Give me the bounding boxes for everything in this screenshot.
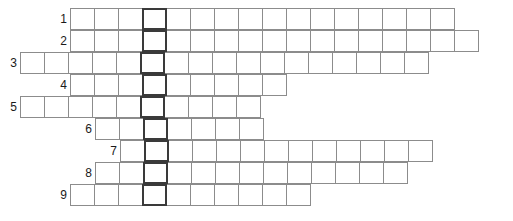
crossword-cell[interactable] [188, 52, 213, 74]
crossword-cell[interactable] [382, 30, 407, 52]
crossword-cell[interactable] [215, 162, 240, 184]
crossword-cell[interactable] [263, 162, 288, 184]
crossword-cell[interactable] [118, 74, 143, 96]
crossword-cell[interactable] [312, 140, 337, 162]
crossword-cell-highlighted[interactable] [142, 8, 167, 30]
crossword-cell[interactable] [212, 96, 237, 118]
crossword-cell[interactable] [68, 96, 93, 118]
crossword-cell[interactable] [119, 118, 144, 140]
crossword-cell[interactable] [214, 8, 239, 30]
crossword-cell[interactable] [236, 52, 261, 74]
crossword-cell-highlighted[interactable] [142, 74, 167, 96]
crossword-cell[interactable] [238, 8, 263, 30]
crossword-cell[interactable] [94, 74, 119, 96]
crossword-cell[interactable] [240, 140, 265, 162]
crossword-cell[interactable] [334, 30, 359, 52]
crossword-cell[interactable] [406, 30, 431, 52]
crossword-cell[interactable] [238, 30, 263, 52]
crossword-cell[interactable] [264, 140, 289, 162]
crossword-cell[interactable] [70, 30, 95, 52]
crossword-cell[interactable] [166, 30, 191, 52]
crossword-cell[interactable] [214, 30, 239, 52]
crossword-cell-highlighted[interactable] [143, 118, 168, 140]
crossword-cell[interactable] [286, 30, 311, 52]
crossword-cell-highlighted[interactable] [140, 96, 165, 118]
crossword-cell[interactable] [239, 162, 264, 184]
crossword-cell[interactable] [190, 8, 215, 30]
crossword-cell[interactable] [215, 118, 240, 140]
crossword-cell[interactable] [116, 96, 141, 118]
crossword-cell[interactable] [383, 162, 408, 184]
crossword-cell[interactable] [380, 52, 405, 74]
crossword-cell[interactable] [286, 184, 311, 206]
crossword-cell[interactable] [311, 162, 336, 184]
crossword-cell[interactable] [382, 8, 407, 30]
crossword-cell[interactable] [190, 74, 215, 96]
crossword-cell[interactable] [356, 52, 381, 74]
crossword-cell-highlighted[interactable] [142, 30, 167, 52]
crossword-cell[interactable] [359, 162, 384, 184]
crossword-cell[interactable] [406, 8, 431, 30]
crossword-cell[interactable] [262, 8, 287, 30]
crossword-cell[interactable] [284, 52, 309, 74]
crossword-cell[interactable] [191, 118, 216, 140]
crossword-cell[interactable] [335, 162, 360, 184]
crossword-cell[interactable] [167, 162, 192, 184]
crossword-cell[interactable] [94, 184, 119, 206]
crossword-cell[interactable] [430, 30, 455, 52]
crossword-cell[interactable] [70, 8, 95, 30]
crossword-cell[interactable] [408, 140, 433, 162]
crossword-cell[interactable] [164, 52, 189, 74]
crossword-cell[interactable] [44, 52, 69, 74]
crossword-cell[interactable] [168, 140, 193, 162]
crossword-cell[interactable] [118, 30, 143, 52]
crossword-cell[interactable] [68, 52, 93, 74]
crossword-cell[interactable] [454, 30, 479, 52]
crossword-cell-highlighted[interactable] [142, 184, 167, 206]
crossword-cell[interactable] [192, 140, 217, 162]
crossword-cell[interactable] [262, 74, 287, 96]
crossword-cell[interactable] [216, 140, 241, 162]
crossword-cell[interactable] [167, 118, 192, 140]
crossword-cell[interactable] [188, 96, 213, 118]
crossword-cell[interactable] [20, 96, 45, 118]
crossword-cell[interactable] [190, 30, 215, 52]
crossword-cell[interactable] [404, 52, 429, 74]
crossword-cell[interactable] [239, 118, 264, 140]
crossword-cell[interactable] [116, 52, 141, 74]
crossword-cell-highlighted[interactable] [144, 140, 169, 162]
crossword-cell[interactable] [118, 184, 143, 206]
crossword-cell[interactable] [190, 184, 215, 206]
crossword-cell[interactable] [238, 184, 263, 206]
crossword-cell[interactable] [119, 162, 144, 184]
crossword-cell[interactable] [238, 74, 263, 96]
crossword-cell[interactable] [44, 96, 69, 118]
crossword-cell[interactable] [70, 184, 95, 206]
crossword-cell[interactable] [92, 52, 117, 74]
crossword-cell[interactable] [262, 30, 287, 52]
crossword-cell-highlighted[interactable] [143, 162, 168, 184]
crossword-cell[interactable] [358, 8, 383, 30]
crossword-cell[interactable] [262, 184, 287, 206]
crossword-cell[interactable] [191, 162, 216, 184]
crossword-cell[interactable] [214, 184, 239, 206]
crossword-cell[interactable] [214, 74, 239, 96]
crossword-cell[interactable] [166, 184, 191, 206]
crossword-cell[interactable] [120, 140, 145, 162]
crossword-cell[interactable] [236, 96, 261, 118]
crossword-cell-highlighted[interactable] [140, 52, 165, 74]
crossword-cell[interactable] [286, 8, 311, 30]
crossword-cell[interactable] [288, 140, 313, 162]
crossword-cell[interactable] [430, 8, 455, 30]
crossword-cell[interactable] [334, 8, 359, 30]
crossword-cell[interactable] [358, 30, 383, 52]
crossword-cell[interactable] [95, 162, 120, 184]
crossword-cell[interactable] [308, 52, 333, 74]
crossword-cell[interactable] [92, 96, 117, 118]
crossword-cell[interactable] [287, 162, 312, 184]
crossword-cell[interactable] [94, 8, 119, 30]
crossword-cell[interactable] [310, 8, 335, 30]
crossword-cell[interactable] [166, 74, 191, 96]
crossword-cell[interactable] [384, 140, 409, 162]
crossword-cell[interactable] [118, 8, 143, 30]
